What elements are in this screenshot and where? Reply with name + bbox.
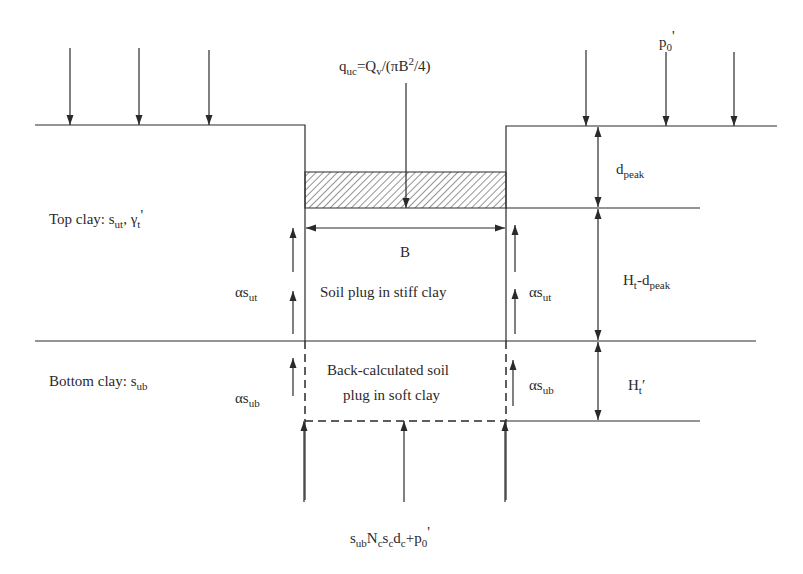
diagram-canvas: quc=Qv/(πB2/4) p0' Top clay: sut, γt' Bo… xyxy=(0,0,803,574)
top-clay-label: Top clay: sut, γt' xyxy=(49,207,143,230)
surcharge-arrows-left xyxy=(70,48,209,125)
dim-dpeak-label: dpeak xyxy=(616,161,645,180)
shear-arrows-top xyxy=(293,225,515,334)
stiff-plug-label: Soil plug in stiff clay xyxy=(320,284,447,300)
width-label: B xyxy=(400,244,410,260)
below-plug-walls xyxy=(305,421,506,500)
base-resistance-arrows xyxy=(304,421,505,502)
dim-ht-dpeak-label: Ht-dpeak xyxy=(623,272,671,291)
ground-right xyxy=(506,126,777,341)
shear-top-left-label: αsut xyxy=(235,284,257,303)
shear-top-right-label: αsut xyxy=(529,284,551,303)
bottom-clay-label: Bottom clay: sub xyxy=(49,373,148,392)
surcharge-arrows-right xyxy=(586,50,734,126)
surcharge-label: p0' xyxy=(659,28,675,53)
soft-plug-outline xyxy=(305,341,506,421)
dim-ht-prime-label: Ht′ xyxy=(628,377,645,396)
shear-bottom-right-label: αsub xyxy=(529,377,554,396)
load-label: quc=Qv/(πB2/4) xyxy=(339,55,431,77)
soft-plug-label-line2: plug in soft clay xyxy=(343,387,441,403)
base-resistance-label: subNcscdc+p0' xyxy=(350,524,430,549)
shear-bottom-left-label: αsub xyxy=(235,390,260,409)
soft-plug-label-line1: Back-calculated soil xyxy=(327,362,449,378)
ground-left xyxy=(35,125,305,341)
